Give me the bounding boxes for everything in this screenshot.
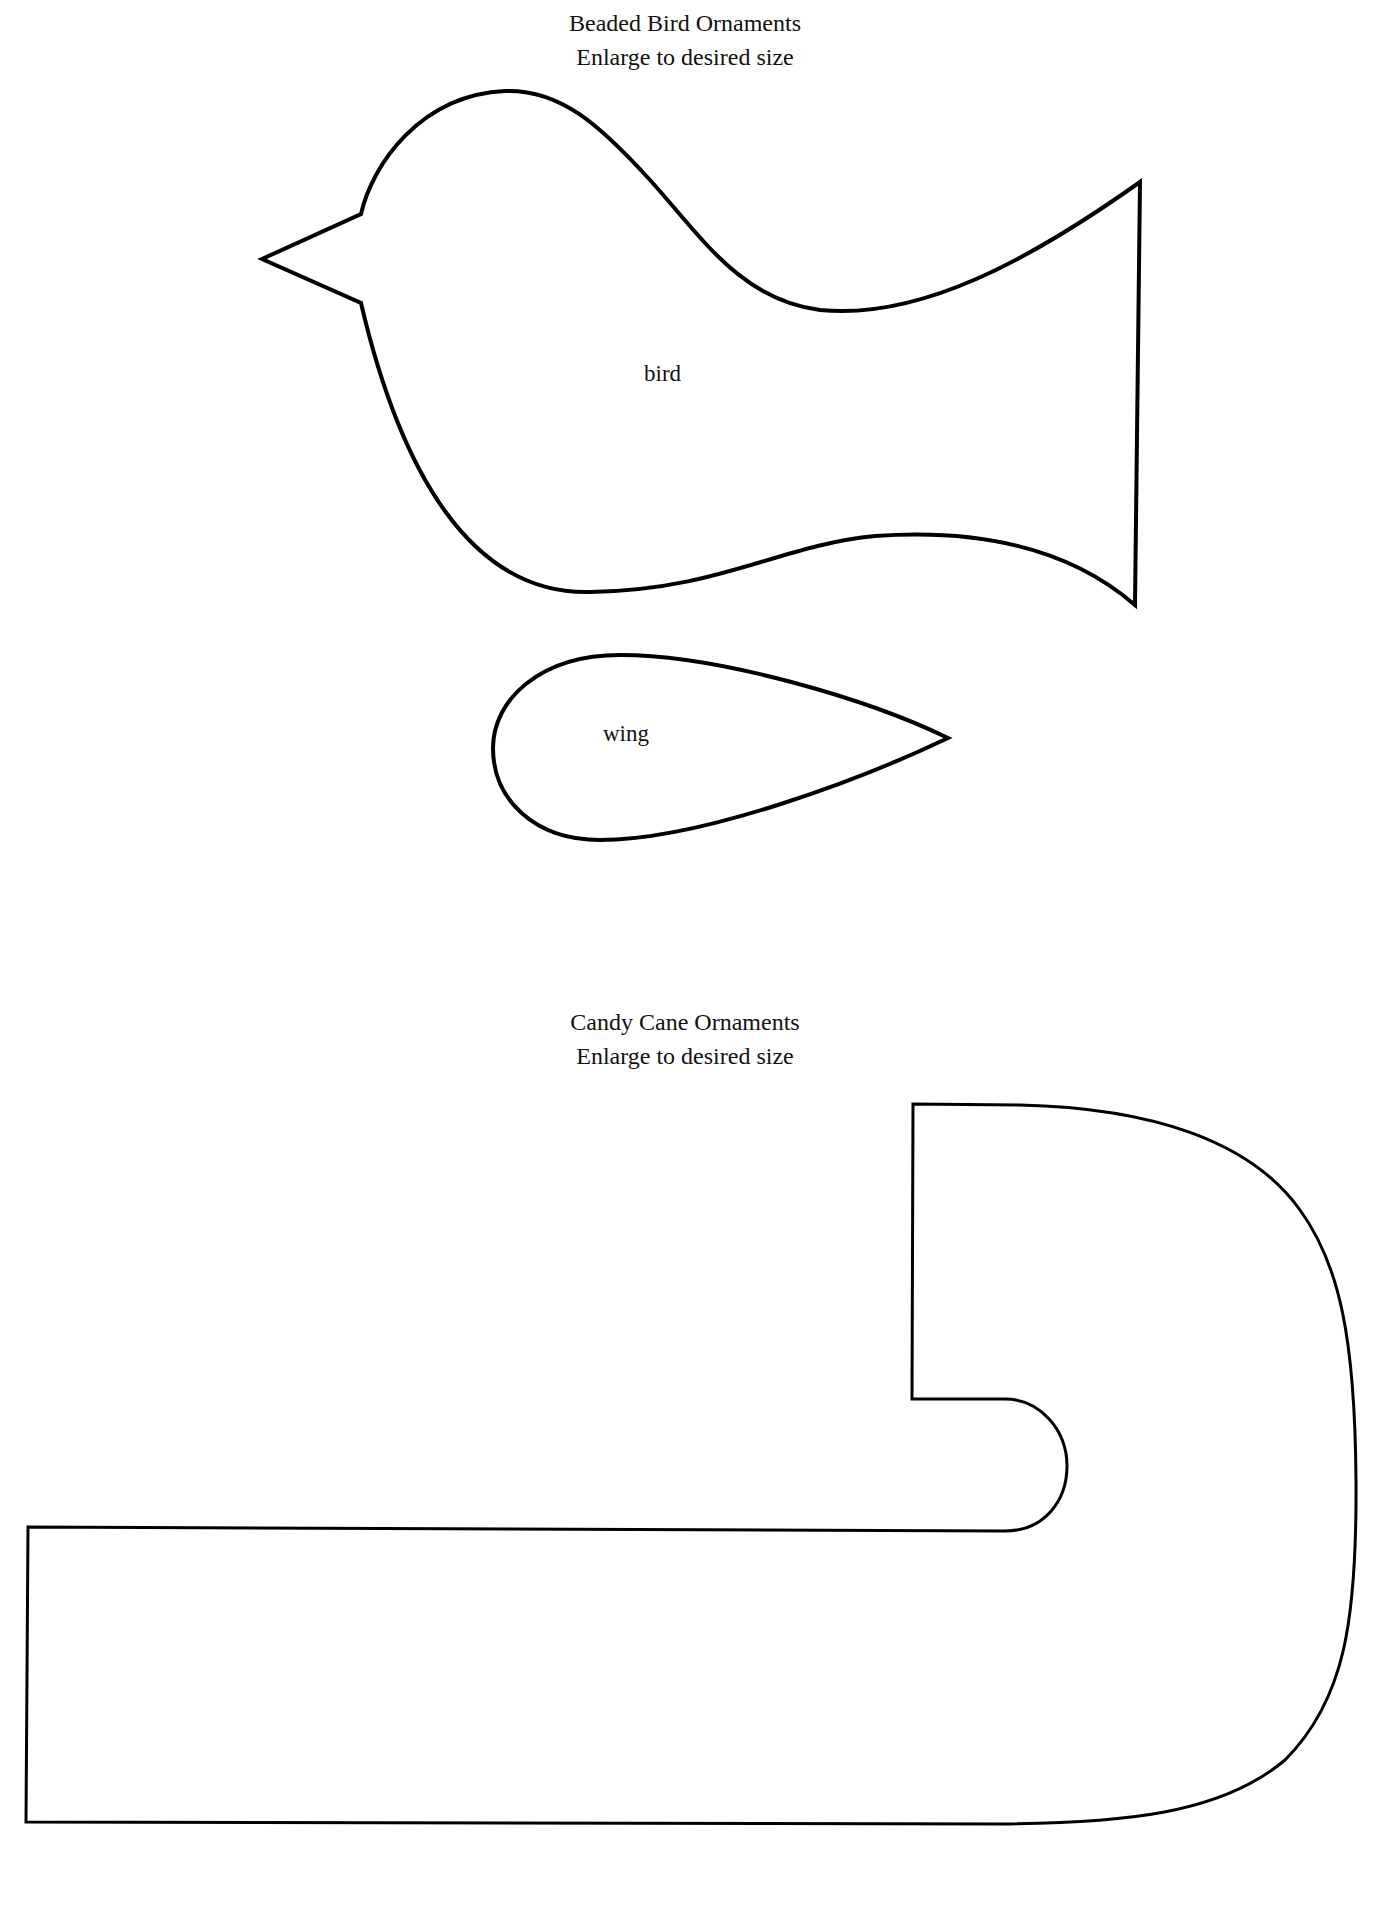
candy-cane-outline xyxy=(26,1104,1356,1824)
cane-section-title: Candy Cane Ornaments xyxy=(0,1005,1370,1039)
wing-outline xyxy=(493,655,948,840)
cane-section-heading: Candy Cane Ornaments Enlarge to desired … xyxy=(0,1005,1370,1073)
template-drawing xyxy=(0,0,1400,1928)
wing-label: wing xyxy=(603,721,649,747)
bird-outline xyxy=(262,91,1140,605)
cane-section-subtitle: Enlarge to desired size xyxy=(0,1039,1370,1073)
bird-label: bird xyxy=(644,361,681,387)
